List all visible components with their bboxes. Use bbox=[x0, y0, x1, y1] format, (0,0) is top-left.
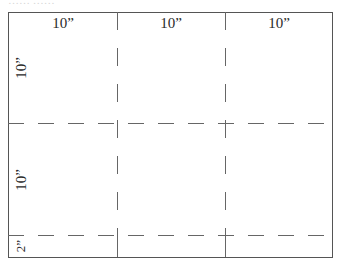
row-label-1: 10” bbox=[13, 57, 29, 79]
cutting-diagram: 10” 10” 10” 10” 10” 2” bbox=[0, 0, 341, 267]
outer-border bbox=[9, 13, 333, 258]
column-label-1: 10” bbox=[52, 15, 74, 31]
column-label-3: 10” bbox=[268, 15, 290, 31]
row-label-3: 2” bbox=[13, 240, 28, 253]
column-label-2: 10” bbox=[160, 15, 182, 31]
row-label-2: 10” bbox=[13, 169, 29, 191]
